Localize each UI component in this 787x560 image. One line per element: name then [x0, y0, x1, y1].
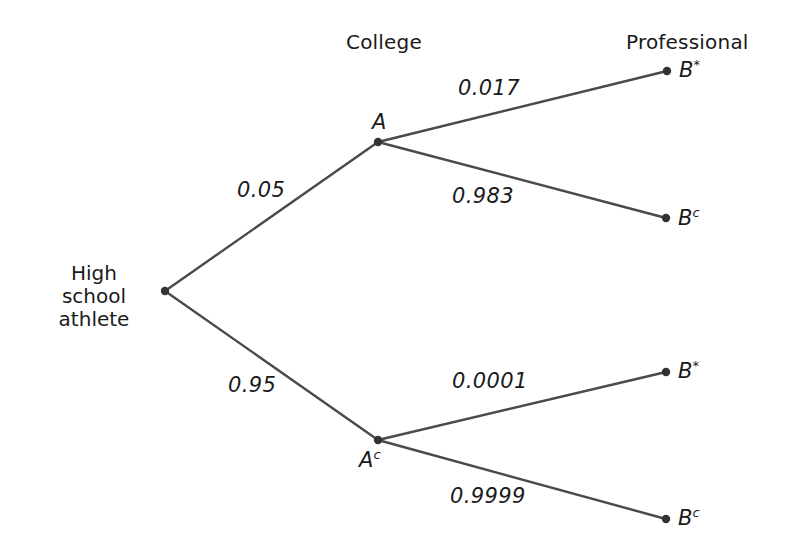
header-college: College: [346, 32, 422, 52]
node-label-root: High school athlete: [38, 262, 150, 331]
edge-label-a-to-bstar: 0.017: [458, 78, 520, 99]
edge-a-to-bc: [378, 142, 666, 218]
edge-label-ac-to-bc: 0.9999: [450, 486, 526, 507]
node-label-b-star-top-superscript: *: [693, 57, 700, 72]
root-label-line2: athlete: [38, 308, 150, 331]
header-professional: Professional: [626, 32, 749, 52]
edge-label-root-to-ac: 0.95: [228, 375, 276, 396]
node-label-bc-top: Bc: [678, 208, 700, 229]
node-label-b-star-top: B*: [679, 60, 700, 81]
edge-root-to-a: [165, 142, 378, 291]
node-dot-ac: [374, 436, 382, 444]
edge-label-root-to-a: 0.05: [237, 180, 285, 201]
node-label-bc-bottom: Bc: [678, 508, 700, 529]
node-label-ac-text: A: [359, 448, 373, 472]
edge-root-to-ac: [165, 291, 378, 440]
root-label-line1: High school: [38, 262, 150, 308]
node-label-bc-bottom-text: B: [678, 506, 692, 530]
node-label-b-star-bottom-text: B: [678, 359, 692, 383]
node-label-ac-superscript: c: [373, 447, 380, 462]
probability-tree-diagram: College Professional High school athlete…: [0, 0, 787, 560]
edge-label-ac-to-bstar: 0.0001: [452, 371, 528, 392]
edge-label-a-to-bc: 0.983: [452, 186, 514, 207]
node-label-ac: Ac: [359, 450, 381, 471]
node-dot-bc_top: [662, 214, 670, 222]
node-label-a: A: [372, 112, 386, 133]
node-dot-group: [161, 67, 671, 523]
node-dot-b_star_top: [663, 67, 671, 75]
node-dot-bc_bottom: [662, 515, 670, 523]
edge-a-to-bstar: [378, 71, 667, 142]
edge-line-group: [165, 71, 667, 519]
node-label-bc-top-text: B: [678, 206, 692, 230]
node-label-b-star-bottom-superscript: *: [692, 358, 699, 373]
node-label-bc-top-superscript: c: [692, 205, 699, 220]
node-label-a-text: A: [372, 110, 386, 134]
node-label-b-star-top-text: B: [679, 58, 693, 82]
node-dot-a: [374, 138, 382, 146]
node-label-bc-bottom-superscript: c: [692, 505, 699, 520]
node-dot-b_star_bottom: [662, 368, 670, 376]
node-dot-root: [161, 287, 169, 295]
node-label-b-star-bottom: B*: [678, 361, 699, 382]
